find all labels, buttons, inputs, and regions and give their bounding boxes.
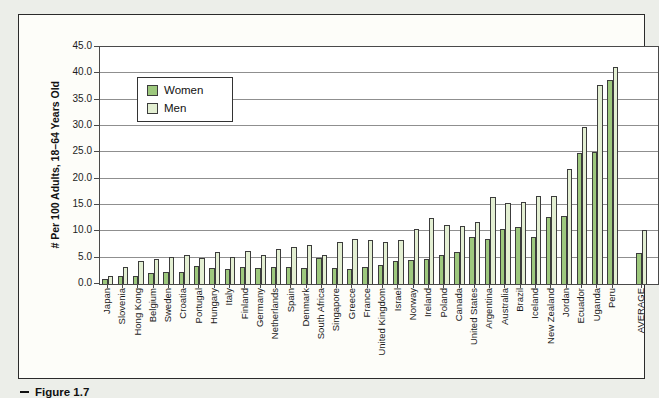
y-tick-label-20.0: 20.0 <box>58 173 92 183</box>
legend-label-women: Women <box>164 85 203 96</box>
legend-item-women: Women <box>147 85 223 96</box>
gridline-40 <box>100 72 658 73</box>
bar-men-Uganda <box>597 85 602 284</box>
y-tick-label-15.0: 15.0 <box>58 199 92 209</box>
y-tick-label-40.0: 40.0 <box>58 67 92 77</box>
y-tick-label-30.0: 30.0 <box>58 120 92 130</box>
x-tick-label-slot-Germany: Germany <box>252 288 268 327</box>
bar-men-Netherlands <box>276 249 281 284</box>
x-tick-label-Hungary: Hungary <box>209 288 219 324</box>
x-tick-label-slot-Singapore: Singapore <box>328 288 344 331</box>
x-tick-label-Israel: Israel <box>393 288 403 311</box>
bar-men-Italy <box>230 257 235 284</box>
y-tick-mark-15.0 <box>94 204 99 205</box>
x-tick-label-Canada: Canada <box>454 288 464 321</box>
x-tick-label-slot-Jordan: Jordan <box>558 288 574 317</box>
bar-men-Norway <box>414 229 419 284</box>
x-tick-label-slot-New Zealand: New Zealand <box>542 288 558 344</box>
x-axis-labels: JapanSloveniaHong KongBelgiumSwedenCroat… <box>99 288 657 392</box>
gridline-25 <box>100 151 658 152</box>
bar-men-Germany <box>261 255 266 284</box>
x-tick-label-slot-Italy: Italy <box>221 288 237 305</box>
bar-men-New Zealand <box>551 196 556 284</box>
x-tick-label-Peru: Peru <box>607 288 617 308</box>
x-tick-label-slot-United Kingdom: United Kingdom <box>374 288 390 356</box>
x-tick-label-South Africa: South Africa <box>316 288 326 339</box>
x-tick-label-slot-Ireland: Ireland <box>420 288 436 317</box>
y-tick-mark-20.0 <box>94 178 99 179</box>
x-tick-label-slot-Canada: Canada <box>451 288 467 321</box>
x-tick-label-Croatia: Croatia <box>178 288 188 319</box>
bar-men-Jordan <box>567 169 572 284</box>
x-tick-label-slot-Portugal: Portugal <box>190 288 206 323</box>
x-tick-label-Norway: Norway <box>408 288 418 320</box>
bar-men-France <box>368 240 373 284</box>
bar-men-Hong Kong <box>138 261 143 284</box>
y-tick-label-35.0: 35.0 <box>58 94 92 104</box>
bar-men-Brazil <box>521 202 526 284</box>
x-tick-label-slot-Spain: Spain <box>282 288 298 312</box>
x-tick-label-slot-Sweden: Sweden <box>160 288 176 322</box>
y-tick-mark-40.0 <box>94 72 99 73</box>
x-tick-label-slot-Hong Kong: Hong Kong <box>129 288 145 336</box>
x-tick-label-Ecuador: Ecuador <box>576 288 586 323</box>
x-tick-label-slot-Peru: Peru <box>604 288 620 308</box>
x-tick-label-slot-South Africa: South Africa <box>313 288 329 339</box>
x-tick-label-Australia: Australia <box>500 288 510 325</box>
caption-text: Figure 1.7 <box>35 386 89 398</box>
legend: Women Men <box>137 77 233 122</box>
figure-caption: Figure 1.7 <box>20 386 89 398</box>
x-tick-label-slot-United States: United States <box>466 288 482 345</box>
x-tick-label-slot-Croatia: Croatia <box>175 288 191 319</box>
bar-men-United States <box>475 222 480 284</box>
bar-men-Hungary <box>215 252 220 284</box>
gridline-20 <box>100 178 658 179</box>
chart-outer-frame: # Per 100 Adults, 18–64 Years Old 45.040… <box>18 14 645 379</box>
x-tick-label-slot-Hungary: Hungary <box>206 288 222 324</box>
x-tick-label-slot-Poland: Poland <box>435 288 451 318</box>
x-tick-label-Belgium: Belgium <box>148 288 158 322</box>
x-tick-label-Spain: Spain <box>286 288 296 312</box>
x-tick-label-United Kingdom: United Kingdom <box>377 288 387 356</box>
bar-men-Canada <box>460 226 465 284</box>
bar-men-Japan <box>108 276 113 284</box>
x-tick-label-New Zealand: New Zealand <box>546 288 556 344</box>
legend-item-men: Men <box>147 103 223 114</box>
x-tick-label-slot-Uganda: Uganda <box>588 288 604 321</box>
x-tick-label-slot-Japan: Japan <box>99 288 115 314</box>
bar-men-AVERAGE <box>642 230 647 284</box>
x-tick-label-Portugal: Portugal <box>194 288 204 323</box>
x-tick-label-Iceland: Iceland <box>530 288 540 319</box>
y-tick-label-25.0: 25.0 <box>58 146 92 156</box>
x-tick-label-Denmark: Denmark <box>301 288 311 327</box>
y-tick-label-10.0: 10.0 <box>58 225 92 235</box>
gridline-30 <box>100 125 658 126</box>
y-tick-mark-10.0 <box>94 230 99 231</box>
bar-men-Iceland <box>536 196 541 284</box>
bar-men-Portugal <box>199 258 204 284</box>
x-tick-label-United States: United States <box>469 288 479 345</box>
bar-men-Australia <box>505 203 510 284</box>
gridline-10 <box>100 230 658 231</box>
x-tick-label-Hong Kong: Hong Kong <box>133 288 143 336</box>
caption-rule <box>20 391 29 394</box>
x-tick-label-slot-Netherlands: Netherlands <box>267 288 283 339</box>
bar-men-Ireland <box>429 218 434 284</box>
bar-men-Israel <box>398 240 403 284</box>
bar-men-Croatia <box>184 255 189 284</box>
bar-men-Poland <box>444 225 449 284</box>
x-tick-label-slot-Denmark: Denmark <box>298 288 314 327</box>
y-tick-mark-25.0 <box>94 151 99 152</box>
x-tick-label-slot-Iceland: Iceland <box>527 288 543 319</box>
bar-men-Belgium <box>154 259 159 284</box>
x-tick-label-Ireland: Ireland <box>423 288 433 317</box>
x-tick-label-slot-Belgium: Belgium <box>145 288 161 322</box>
bar-men-Slovenia <box>123 267 128 284</box>
x-tick-label-Finland: Finland <box>240 288 250 319</box>
bar-men-Spain <box>291 247 296 284</box>
x-tick-label-slot-Argentina: Argentina <box>481 288 497 329</box>
x-tick-label-Japan: Japan <box>102 288 112 314</box>
bar-men-Denmark <box>307 245 312 285</box>
legend-swatch-women <box>147 85 158 96</box>
